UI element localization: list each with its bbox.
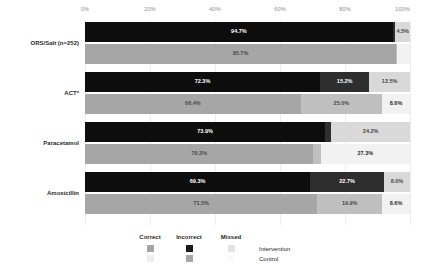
segment-correct: 69.3%	[85, 172, 310, 192]
x-axis-tick-20: 20%	[144, 6, 156, 12]
segment-missed: 12.5%	[369, 72, 410, 92]
bar-control-3: 70.3%2.3%27.3%	[85, 144, 410, 164]
legend-swatch-cell	[167, 255, 211, 262]
segment-missed: 24.2%	[331, 122, 410, 142]
segment-value-label: 71.5%	[193, 201, 209, 207]
segment-missed: 8.6%	[382, 94, 410, 114]
segment-value-label: 94.7%	[231, 29, 247, 35]
segment-incorrect: 25.0%	[301, 94, 382, 114]
segment-value-label: 8.0%	[391, 179, 404, 185]
segment-incorrect: 22.7%	[310, 172, 384, 192]
segment-correct: 95.7%	[85, 44, 396, 64]
segment-value-label: 72.3%	[195, 79, 211, 85]
legend-header-incorrect: Incorrect	[167, 234, 211, 240]
plot-area: ORS/Salt (n=252)94.7%0.8%4.5%95.7%0.4%3.…	[85, 20, 410, 225]
bar-intervention-3: 73.9%1.9%24.2%	[85, 122, 410, 142]
bar-intervention-1: 94.7%0.8%4.5%	[85, 22, 410, 42]
segment-correct: 66.4%	[85, 94, 301, 114]
segment-correct: 94.7%	[85, 22, 393, 42]
segment-correct: 73.9%	[85, 122, 325, 142]
bar-control-4: 71.5%19.9%8.6%	[85, 194, 410, 214]
legend-swatch-missed-intervention	[228, 245, 235, 252]
x-axis-tick-0: 0%	[81, 6, 89, 12]
bar-group-4: Amoxicillin69.3%22.7%8.0%71.5%19.9%8.6%	[85, 172, 410, 214]
segment-missed: 27.3%	[321, 144, 410, 164]
segment-correct: 71.5%	[85, 194, 317, 214]
x-axis-tick-40: 40%	[209, 6, 221, 12]
legend-swatch-cell	[211, 255, 251, 262]
segment-value-label: 12.5%	[382, 79, 398, 85]
x-axis-tick-100: 100%	[395, 6, 410, 12]
legend-swatch-correct-control	[147, 255, 154, 262]
legend-swatch-cell	[133, 255, 167, 262]
legend-swatch-correct-intervention	[147, 245, 154, 252]
category-label-2: ACT*	[64, 90, 79, 96]
segment-value-label: 73.9%	[197, 129, 213, 135]
segment-value-label: 25.0%	[334, 101, 350, 107]
x-axis-tick-labels: 0%20%40%60%80%100%	[85, 6, 410, 20]
segment-incorrect: 19.9%	[317, 194, 382, 214]
segment-value-label: 69.3%	[190, 179, 206, 185]
chart-legend: CorrectIncorrectMissed InterventionContr…	[133, 234, 363, 268]
segment-missed: 4.5%	[395, 22, 410, 42]
segment-incorrect: 2.3%	[313, 144, 320, 164]
segment-value-label: 24.2%	[363, 129, 379, 135]
segment-value-label: 4.5%	[396, 29, 409, 35]
segment-value-label: 8.6%	[390, 201, 403, 207]
bar-group-3: Paracetamol73.9%1.9%24.2%70.3%2.3%27.3%	[85, 122, 410, 164]
legend-column-headers: CorrectIncorrectMissed	[133, 234, 251, 240]
x-axis-tick-80: 80%	[339, 6, 351, 12]
bar-control-1: 95.7%0.4%3.9%	[85, 44, 410, 64]
legend-swatch-incorrect-intervention	[186, 245, 193, 252]
x-axis-tick-60: 60%	[274, 6, 286, 12]
legend-row-intervention: Intervention	[133, 245, 290, 252]
category-label-4: Amoxicillin	[47, 190, 79, 196]
legend-swatch-missed-control	[228, 255, 235, 262]
segment-incorrect: 15.2%	[320, 72, 369, 92]
bar-intervention-4: 69.3%22.7%8.0%	[85, 172, 410, 192]
segment-value-label: 8.6%	[390, 101, 403, 107]
segment-correct: 70.3%	[85, 144, 313, 164]
segment-correct: 72.3%	[85, 72, 320, 92]
category-label-1: ORS/Salt (n=252)	[30, 40, 79, 46]
segment-missed: 8.6%	[382, 194, 410, 214]
gridline-100	[410, 20, 411, 225]
bar-group-2: ACT*72.3%15.2%12.5%66.4%25.0%8.6%	[85, 72, 410, 114]
segment-missed: 8.0%	[384, 172, 410, 192]
bar-control-2: 66.4%25.0%8.6%	[85, 94, 410, 114]
legend-series-name: Intervention	[259, 246, 290, 252]
legend-row-control: Control	[133, 255, 278, 262]
segment-value-label: 70.3%	[191, 151, 207, 157]
legend-header-correct: Correct	[133, 234, 167, 240]
segment-value-label: 19.9%	[342, 201, 358, 207]
legend-swatch-cell	[167, 245, 211, 252]
stacked-bar-chart: 0%20%40%60%80%100% ORS/Salt (n=252)94.7%…	[0, 0, 429, 274]
segment-value-label: 22.7%	[339, 179, 355, 185]
legend-swatch-cell	[211, 245, 251, 252]
segment-value-label: 15.2%	[337, 79, 353, 85]
legend-header-missed: Missed	[211, 234, 251, 240]
bar-group-1: ORS/Salt (n=252)94.7%0.8%4.5%95.7%0.4%3.…	[85, 22, 410, 64]
bar-intervention-2: 72.3%15.2%12.5%	[85, 72, 410, 92]
legend-swatch-cell	[133, 245, 167, 252]
segment-value-label: 66.4%	[185, 101, 201, 107]
segment-value-label: 27.3%	[357, 151, 373, 157]
category-label-3: Paracetamol	[43, 140, 79, 146]
legend-swatch-incorrect-control	[186, 255, 193, 262]
legend-series-name: Control	[259, 256, 278, 262]
segment-value-label: 95.7%	[233, 51, 249, 57]
segment-missed: 3.9%	[397, 44, 410, 64]
